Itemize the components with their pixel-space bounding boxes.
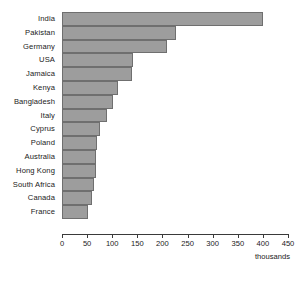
x-axis-tick-label: 100 xyxy=(106,240,119,248)
bar-row xyxy=(62,67,288,81)
x-axis-tick-label: 200 xyxy=(156,240,169,248)
category-label: Jamaica xyxy=(0,67,58,81)
category-label: India xyxy=(0,12,58,26)
x-axis-tick xyxy=(238,234,239,238)
category-axis-labels: India Pakistan Germany USA Jamaica Kenya… xyxy=(0,12,58,219)
bar xyxy=(62,150,96,164)
bar xyxy=(62,109,107,123)
category-label: Bangladesh xyxy=(0,95,58,109)
category-label: France xyxy=(0,205,58,219)
category-label: Canada xyxy=(0,191,58,205)
bar xyxy=(62,67,132,81)
x-axis-tick-label: 250 xyxy=(181,240,194,248)
x-axis-tick-label: 150 xyxy=(131,240,144,248)
bar-row xyxy=(62,178,288,192)
bar xyxy=(62,40,167,54)
category-label: Italy xyxy=(0,109,58,123)
bar xyxy=(62,53,133,67)
x-axis-tick xyxy=(112,234,113,238)
bar xyxy=(62,26,176,40)
bar xyxy=(62,95,113,109)
x-axis-tick-label: 0 xyxy=(60,240,64,248)
bar-row xyxy=(62,191,288,205)
bar-row xyxy=(62,40,288,54)
plot-area xyxy=(62,12,288,219)
bar-row xyxy=(62,26,288,40)
bar xyxy=(62,81,118,95)
bar-chart: India Pakistan Germany USA Jamaica Kenya… xyxy=(0,0,296,281)
category-label: Poland xyxy=(0,136,58,150)
bar xyxy=(62,191,92,205)
bar xyxy=(62,12,263,26)
category-label: Germany xyxy=(0,40,58,54)
bar-row xyxy=(62,136,288,150)
x-axis-tick xyxy=(213,234,214,238)
category-label: Australia xyxy=(0,150,58,164)
bar-row xyxy=(62,122,288,136)
category-label: Cyprus xyxy=(0,122,58,136)
category-label: USA xyxy=(0,53,58,67)
x-axis-tick-label: 450 xyxy=(282,240,295,248)
x-axis-unit-label: thousands xyxy=(255,253,290,261)
x-axis-tick xyxy=(162,234,163,238)
bar-row xyxy=(62,150,288,164)
bar-row xyxy=(62,12,288,26)
x-axis-tick xyxy=(137,234,138,238)
x-axis-tick xyxy=(62,234,63,238)
x-axis-tick-label: 400 xyxy=(257,240,270,248)
bar xyxy=(62,205,88,219)
bar xyxy=(62,178,94,192)
x-axis-line xyxy=(62,234,288,235)
x-axis-tick-label: 50 xyxy=(83,240,91,248)
x-axis-tick xyxy=(188,234,189,238)
bar-row xyxy=(62,109,288,123)
category-label: Kenya xyxy=(0,81,58,95)
x-axis-tick xyxy=(87,234,88,238)
x-axis-tick-label: 300 xyxy=(206,240,219,248)
x-axis-tick xyxy=(263,234,264,238)
category-label: Pakistan xyxy=(0,26,58,40)
x-axis-tick-label: 350 xyxy=(231,240,244,248)
bar xyxy=(62,122,100,136)
bar-row xyxy=(62,205,288,219)
bar-row xyxy=(62,164,288,178)
category-label: Hong Kong xyxy=(0,164,58,178)
bar xyxy=(62,164,96,178)
bar-row xyxy=(62,53,288,67)
category-label: South Africa xyxy=(0,178,58,192)
bar-row xyxy=(62,95,288,109)
bar-row xyxy=(62,81,288,95)
x-axis-tick xyxy=(288,234,289,238)
bar xyxy=(62,136,97,150)
